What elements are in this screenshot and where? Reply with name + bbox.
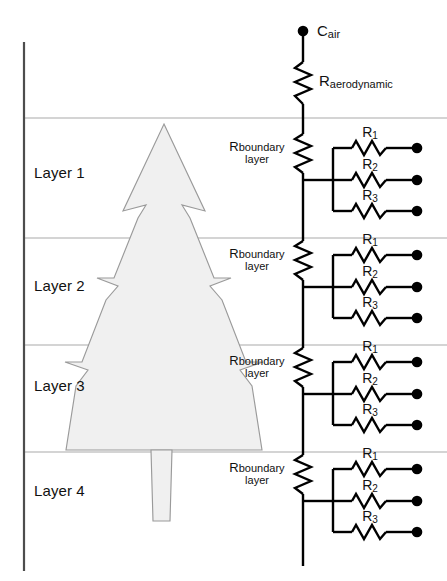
layer-4-branch-r1 (333, 462, 422, 476)
r-boundary-layer-1-symbol (295, 134, 311, 173)
layer-label-2: Layer 2 (34, 278, 85, 293)
r3-label-layer-1: R3 (352, 188, 388, 202)
layer-3-terminal-r3 (412, 420, 423, 431)
layer-label-3: Layer 3 (34, 378, 85, 393)
bl-sub1-3: boundary (239, 355, 285, 367)
layer-3-branch-r2 (333, 387, 422, 401)
r-aerodynamic-resistor-symbol (295, 62, 311, 104)
layer-2-terminal-r3 (412, 313, 423, 324)
layer-label-1: Layer 1 (34, 165, 85, 180)
bl-sub1-4: boundary (239, 462, 285, 474)
r3-label-layer-3: R3 (352, 402, 388, 416)
layer-2-terminal-r1 (412, 250, 423, 261)
tree-trunk-shape (151, 450, 172, 521)
r-boundary-layer-label-1: Rboundary layer (218, 140, 296, 165)
canopy-resistance-diagram: Cair Raerodynamic Layer 1 Layer 2 Layer … (0, 0, 447, 581)
bl-symbol-2: R (229, 246, 238, 261)
layer-1-branch-r1 (333, 141, 422, 155)
r2-label-layer-1: R2 (352, 157, 388, 171)
bl-sub2-3: layer (218, 368, 296, 380)
layer-4-terminal-r2 (412, 496, 423, 507)
r1-label-layer-2: R1 (352, 232, 388, 246)
layer-3-network (295, 348, 422, 432)
bl-symbol-3: R (229, 353, 238, 368)
layer-4-terminal-r1 (412, 464, 423, 475)
layer-4-terminal-r3 (412, 527, 423, 538)
r2-label-layer-3: R2 (352, 371, 388, 385)
layer-1-branch-r2 (333, 173, 422, 187)
r-boundary-layer-label-2: Rboundary layer (218, 247, 296, 272)
r-boundary-layer-label-3: Rboundary layer (218, 354, 296, 379)
layer-3-terminal-r1 (412, 357, 423, 368)
c-air-subscript: air (328, 28, 340, 40)
layer-3-terminal-r2 (412, 389, 423, 400)
r2-label-layer-2: R2 (352, 264, 388, 278)
r-boundary-layer-2-symbol (295, 241, 311, 280)
layer-1-terminal-r3 (412, 206, 423, 217)
layer-2-branch-r3 (333, 311, 422, 325)
tree-canopy-shape (65, 124, 263, 450)
r-boundary-layer-3-symbol (295, 348, 311, 387)
r3-label-layer-4: R3 (352, 509, 388, 523)
layer-3-branch-r3 (333, 418, 422, 432)
layer-4-network (295, 455, 422, 539)
r3-label-layer-2: R3 (352, 295, 388, 309)
layer-2-terminal-r2 (412, 282, 423, 293)
layer-2-branch-r2 (333, 280, 422, 294)
c-air-symbol: C (317, 22, 328, 39)
r-aerodynamic-symbol: R (319, 72, 330, 89)
layer-4-branch-r3 (333, 525, 422, 539)
r1-label-layer-3: R1 (352, 339, 388, 353)
r1-label-layer-4: R1 (352, 446, 388, 460)
r1-label-layer-1: R1 (352, 125, 388, 139)
layer-1-terminal-r1 (412, 143, 423, 154)
bl-sub1-1: boundary (239, 141, 285, 153)
r-boundary-layer-4-symbol (295, 455, 311, 494)
c-air-node-dot (298, 26, 309, 37)
bl-sub2-1: layer (218, 154, 296, 166)
bl-sub1-2: boundary (239, 248, 285, 260)
layer-1-branch-r3 (333, 204, 422, 218)
r-boundary-layer-label-4: Rboundary layer (218, 461, 296, 486)
layer-2-branch-r1 (333, 248, 422, 262)
c-air-label: Cair (317, 23, 340, 38)
r-aerodynamic-subscript: aerodynamic (330, 78, 393, 90)
r-aerodynamic-label: Raerodynamic (319, 73, 393, 88)
layer-1-network (295, 134, 422, 218)
layer-label-4: Layer 4 (34, 483, 85, 498)
bl-sub2-2: layer (218, 261, 296, 273)
r2-label-layer-4: R2 (352, 478, 388, 492)
bl-symbol-4: R (229, 460, 238, 475)
bl-sub2-4: layer (218, 475, 296, 487)
layer-3-branch-r1 (333, 355, 422, 369)
layer-2-network (295, 241, 422, 325)
layer-1-terminal-r2 (412, 175, 423, 186)
bl-symbol-1: R (229, 139, 238, 154)
layer-4-branch-r2 (333, 494, 422, 508)
